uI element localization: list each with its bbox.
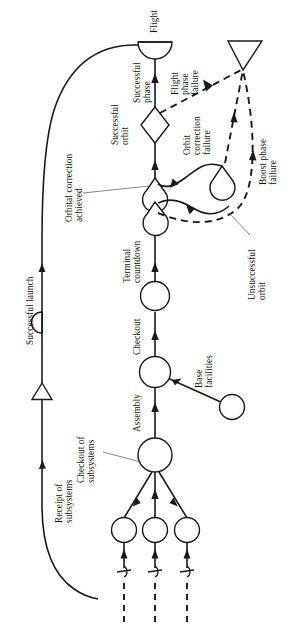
successful-orbit-arrowhead	[151, 160, 158, 170]
label-checkout-of-subsystems-line2: subsystems	[86, 439, 96, 483]
orbit-correct-right-teardrop[interactable]	[210, 166, 235, 200]
label-terminal-countdown-line2: countdown	[132, 241, 142, 283]
checkout-of-subsystems-leader	[103, 452, 141, 462]
successful-phase-arrowhead	[151, 73, 158, 83]
label-assembly: Assembly	[132, 394, 142, 432]
label-receipt-of-subsystems-line2: subsystems	[64, 479, 74, 523]
label-orbit-correction-failure-line2: correction	[192, 116, 202, 155]
launch-triangle-node[interactable]	[32, 383, 52, 400]
label-successful-orbit-line2: orbit	[120, 127, 130, 145]
label-unsuccessful-orbit-line1: Unsuccessful	[247, 249, 257, 300]
label-flight-phase-failure-line3: failure	[190, 70, 200, 95]
activity-network-diagram: Flight Successful phase Successful orbit…	[0, 0, 300, 638]
label-orbit-correction-failure-line1: Orbit	[182, 135, 192, 155]
label-flight-phase-failure-line1: Flight	[170, 72, 180, 95]
successful-launch-arrowhead-upper	[39, 263, 46, 272]
label-receipt-of-subsystems-line1: Receipt of	[54, 483, 64, 523]
label-base-facilities-line1: Base	[194, 370, 204, 388]
boost-phase-failure-arrowhead	[249, 150, 257, 161]
label-base-facilities-line2: facilities	[204, 355, 214, 388]
base-facilities-circle[interactable]	[220, 395, 245, 420]
edge-subsystem-1	[124, 472, 152, 518]
checkout-arrowhead	[151, 330, 158, 340]
edge-subsystem-3	[159, 472, 187, 518]
assembly-arrowhead	[151, 402, 158, 412]
subsystem-2-tail-arrowhead	[152, 549, 159, 559]
subsystem-3-tail-arrowhead	[184, 549, 191, 559]
successful-launch-arrowhead-lower	[39, 460, 46, 469]
label-checkout: Checkout	[132, 318, 142, 355]
label-orbital-correction-achieved-line2: achieved	[74, 188, 84, 222]
label-flight-phase-failure-line2: phase	[180, 73, 190, 95]
subsystem-circle-1[interactable]	[112, 518, 137, 543]
flight-half-disc-node[interactable]	[138, 42, 172, 59]
label-terminal-countdown-line1: Terminal	[122, 248, 132, 283]
subsystem-circle-3[interactable]	[175, 518, 200, 543]
subsystem-circle-2[interactable]	[143, 518, 168, 543]
orbit-correction-failure-arrowhead	[231, 112, 238, 123]
label-orbit-correction-failure-line3: failure	[202, 130, 212, 155]
label-successful-launch: Successful launch	[25, 276, 35, 345]
subsystem-fan-group	[112, 472, 200, 625]
orbit-correction-upper-arrowhead	[170, 178, 179, 187]
label-boost-phase-failure-line1: Boost phase	[258, 139, 268, 185]
label-successful-phase-line1: Successful	[132, 62, 142, 103]
label-checkout-of-subsystems-line1: Checkout of	[76, 435, 86, 483]
unsuccessful-orbit-leader	[229, 213, 250, 235]
subsystem-2-arrowhead	[151, 489, 158, 499]
label-flight: Flight	[149, 10, 159, 33]
subsystem-1-tail-arrowhead	[121, 549, 128, 559]
orbit-correction-lower-curve	[158, 200, 229, 214]
label-successful-orbit-line1: Successful	[110, 104, 120, 145]
label-boost-phase-failure-line2: failure	[268, 160, 278, 185]
terminal-countdown-arrowhead	[151, 262, 158, 272]
orbital-correction-leader	[83, 186, 149, 193]
label-successful-phase-line2: phase	[142, 81, 152, 103]
failure-triangle-node[interactable]	[228, 41, 262, 70]
countdown-circle-node[interactable]	[141, 282, 170, 311]
label-unsuccessful-orbit-line2: orbit	[257, 282, 267, 300]
assembly-circle-node[interactable]	[138, 438, 172, 472]
decision-diamond-node[interactable]	[141, 107, 169, 143]
checkout-circle-node[interactable]	[140, 357, 171, 388]
label-orbital-correction-achieved-line1: Orbital correction	[64, 154, 74, 222]
diagram-canvas: Flight Successful phase Successful orbit…	[0, 0, 300, 638]
edge-base-facilities	[163, 376, 223, 403]
